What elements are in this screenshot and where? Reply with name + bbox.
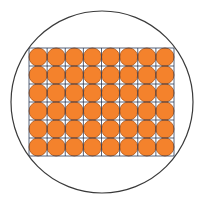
small-circle	[156, 120, 174, 138]
small-circle	[29, 48, 47, 66]
small-circle	[65, 102, 83, 120]
small-circle	[65, 66, 83, 84]
small-circle	[47, 66, 65, 84]
small-circle	[102, 120, 120, 138]
small-circle	[102, 84, 120, 102]
small-circle	[138, 102, 156, 120]
small-circle	[120, 48, 138, 66]
small-circle	[29, 66, 47, 84]
small-circle	[120, 84, 138, 102]
small-circle	[47, 48, 65, 66]
small-circle	[138, 66, 156, 84]
small-circle	[65, 48, 83, 66]
small-circle	[83, 138, 101, 156]
small-circle	[102, 66, 120, 84]
small-circle	[102, 48, 120, 66]
small-circle	[102, 138, 120, 156]
small-circle	[83, 120, 101, 138]
small-circle	[120, 120, 138, 138]
small-circle	[156, 138, 174, 156]
small-circle	[47, 84, 65, 102]
small-circle	[120, 102, 138, 120]
small-circle	[65, 84, 83, 102]
small-circle	[138, 120, 156, 138]
small-circle	[156, 48, 174, 66]
small-circle	[83, 48, 101, 66]
grid-in-circle-diagram	[0, 0, 205, 204]
small-circle	[156, 66, 174, 84]
small-circle	[29, 84, 47, 102]
small-circle	[138, 48, 156, 66]
small-circle	[83, 102, 101, 120]
small-circle	[29, 120, 47, 138]
small-circle	[83, 66, 101, 84]
small-circle	[120, 138, 138, 156]
small-circle	[156, 102, 174, 120]
small-circle	[83, 84, 101, 102]
small-circle	[138, 84, 156, 102]
small-circle	[47, 120, 65, 138]
small-circle	[138, 138, 156, 156]
small-circle	[29, 102, 47, 120]
small-circle	[156, 84, 174, 102]
small-circle	[120, 66, 138, 84]
small-circle	[102, 102, 120, 120]
small-circle	[47, 138, 65, 156]
small-circle	[47, 102, 65, 120]
small-circle	[65, 120, 83, 138]
small-circle	[29, 138, 47, 156]
small-circle	[65, 138, 83, 156]
